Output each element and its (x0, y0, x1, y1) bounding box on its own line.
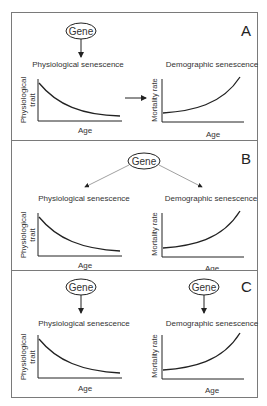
left-graph-ylabel: Physiological trait (19, 211, 37, 258)
gene-label: Gene (192, 282, 217, 293)
right-graph-title: Demographic senescence (165, 194, 258, 203)
gene-label: Gene (132, 156, 157, 167)
right-graph-curve (163, 77, 240, 113)
svg-text:Mortality rate: Mortality rate (150, 334, 159, 377)
gene-node-right: Gene (189, 279, 219, 295)
svg-text:Physiological: Physiological (19, 333, 28, 380)
left-graph-xlabel: Age (78, 261, 93, 270)
right-graph-title: Demographic senescence (166, 319, 259, 328)
left-graph-xlabel: Age (78, 126, 93, 135)
left-graph-curve (39, 339, 120, 373)
gene-node: Gene (128, 153, 160, 169)
left-graph-title: Physiological senescence (38, 194, 130, 203)
svg-text:trait: trait (28, 93, 37, 107)
panel-b: B Gene Physiological senescence Physiolo… (11, 140, 258, 271)
svg-text:trait: trait (28, 228, 37, 242)
left-graph-axes (38, 79, 122, 121)
right-graph-axes (162, 79, 244, 122)
panel-c-diagram: Gene Gene Physiological senescence Physi… (12, 271, 259, 399)
right-graph-axes (162, 213, 244, 257)
right-graph-ylabel: Mortality rate (150, 212, 159, 255)
left-graph-xlabel: Age (78, 384, 93, 393)
svg-text:trait: trait (28, 350, 37, 364)
svg-text:Physiological: Physiological (19, 76, 28, 123)
right-graph-curve (163, 211, 240, 248)
svg-text:Physiological: Physiological (19, 211, 28, 258)
gene-label: Gene (69, 26, 94, 37)
right-graph-title: Demographic senescence (166, 60, 259, 69)
left-graph-ylabel: Physiological trait (19, 76, 37, 123)
right-graph-ylabel: Mortality rate (150, 334, 159, 377)
panel-a-diagram: Gene Physiological senescence Physiologi… (12, 13, 259, 142)
left-graph-title: Physiological senescence (32, 60, 124, 69)
right-graph-curve (163, 333, 240, 370)
gene-node-left: Gene (66, 279, 96, 295)
left-graph-title: Physiological senescence (38, 319, 130, 328)
panel-a: A Gene Physiological senescence Physiolo… (11, 12, 258, 141)
svg-text:Mortality rate: Mortality rate (150, 212, 159, 255)
left-graph-curve (39, 217, 120, 251)
right-graph-ylabel: Mortality rate (150, 78, 159, 121)
right-graph-xlabel: Age (205, 386, 220, 395)
right-graph-axes (162, 335, 244, 379)
panel-b-diagram: Gene Physiological senescence Physiologi… (12, 141, 259, 272)
arrow-to-demographic-icon (159, 165, 202, 187)
panel-c: C Gene Gene Physiological senescence Phy… (11, 270, 258, 398)
right-graph-xlabel: Age (206, 130, 221, 139)
svg-text:Mortality rate: Mortality rate (150, 78, 159, 121)
left-graph-curve (39, 83, 120, 116)
gene-node: Gene (66, 23, 96, 39)
left-graph-ylabel: Physiological trait (19, 333, 37, 380)
gene-label: Gene (69, 282, 94, 293)
arrow-to-physiological-icon (85, 165, 129, 187)
